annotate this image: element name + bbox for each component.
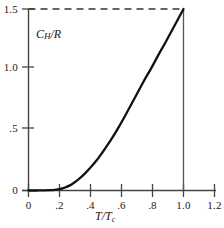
- x-tick-label-0-2: .2: [48, 199, 71, 211]
- x-tick-label-1-0: 1.0: [172, 199, 195, 211]
- y-axis-title-divider: /R: [51, 27, 62, 41]
- y-tick-label-1-5: 1.5: [0, 3, 18, 15]
- y-tick-label-1-0: 1.0: [0, 61, 18, 73]
- x-axis-title-numerator: T/T: [95, 209, 112, 223]
- y-tick-label-0-5: .5: [0, 122, 18, 134]
- y-tick-label-0: 0: [0, 184, 18, 196]
- y-axis-title-subscript: H: [44, 31, 51, 41]
- x-tick-label-0-8: .8: [141, 199, 164, 211]
- x-axis-title: T/Tc: [95, 209, 115, 224]
- y-axis-title-numerator: C: [36, 27, 44, 41]
- chart-figure: 1.5 1.0 .5 0 0 .2 .4 .6 .8 1.0 1.2 CH/R …: [0, 0, 224, 228]
- y-axis-title: CH/R: [36, 27, 61, 42]
- x-axis-title-subscript: c: [112, 215, 116, 224]
- chart-plot-area: [0, 0, 224, 228]
- x-tick-label-0: 0: [17, 199, 40, 211]
- x-tick-label-1-2: 1.2: [203, 199, 224, 211]
